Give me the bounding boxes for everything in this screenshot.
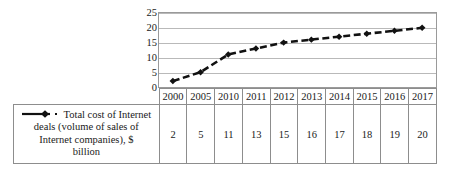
value-cell-2005: 5	[187, 105, 215, 164]
data-point-2012	[280, 39, 287, 45]
y-tick-20: 20	[131, 23, 157, 33]
legend-label-line-1: Total cost of Internet	[64, 109, 152, 120]
value-cell-2012: 15	[270, 105, 298, 164]
series-plot	[159, 13, 436, 87]
dot-icon	[55, 113, 57, 115]
year-header-2014: 2014	[326, 89, 354, 105]
legend-label-line-2: deals (volume of sales of	[17, 121, 156, 134]
year-header-2017: 2017	[409, 89, 437, 105]
series-markers	[170, 25, 426, 85]
y-axis: 25 20 15 10 5 0	[131, 8, 157, 94]
value-cell-2017: 20	[409, 105, 437, 164]
data-point-2013	[308, 36, 315, 42]
year-header-2016: 2016	[381, 89, 409, 105]
table-corner-spacer	[14, 89, 160, 105]
value-cell-2016: 19	[381, 105, 409, 164]
value-cell-2011: 13	[242, 105, 270, 164]
year-header-2012: 2012	[270, 89, 298, 105]
table-row-years: 2000 2005 2010 2011 2012 2013 2014 2015 …	[14, 89, 437, 105]
value-cell-2013: 16	[298, 105, 326, 164]
year-header-2015: 2015	[353, 89, 381, 105]
data-table: 2000 2005 2010 2011 2012 2013 2014 2015 …	[13, 88, 437, 158]
data-point-2017	[419, 25, 426, 31]
plot-area	[158, 12, 437, 88]
y-tick-10: 10	[131, 53, 157, 63]
data-point-2011	[253, 45, 260, 51]
year-header-2000: 2000	[159, 89, 187, 105]
legend-entry: Total cost of Internet deals (volume of …	[14, 105, 160, 164]
data-point-2016	[391, 28, 398, 34]
data-point-2014	[336, 33, 343, 39]
year-header-2010: 2010	[215, 89, 243, 105]
year-header-2011: 2011	[242, 89, 270, 105]
data-point-2000	[170, 78, 177, 84]
chart-figure: 25 20 15 10 5 0 2000 2005	[0, 0, 451, 171]
legend-label-line-4: billion	[17, 146, 156, 159]
y-tick-15: 15	[131, 38, 157, 48]
year-header-2013: 2013	[298, 89, 326, 105]
value-cell-2010: 11	[215, 105, 243, 164]
value-cell-2015: 18	[353, 105, 381, 164]
year-header-2005: 2005	[187, 89, 215, 105]
value-cell-2014: 17	[326, 105, 354, 164]
value-cell-2000: 2	[159, 105, 187, 164]
table-row-values: Total cost of Internet deals (volume of …	[14, 105, 437, 164]
line-with-diamond-marker-icon	[22, 109, 52, 119]
y-tick-25: 25	[131, 8, 157, 18]
data-point-2015	[363, 31, 370, 37]
legend-label-line-3: Internet companies), $	[17, 134, 156, 147]
y-tick-5: 5	[131, 68, 157, 78]
series-line-total-cost	[173, 28, 422, 81]
